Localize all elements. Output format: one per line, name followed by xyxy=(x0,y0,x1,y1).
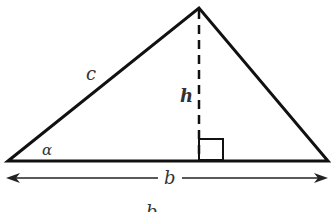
base-label-b: b xyxy=(164,167,176,188)
right-angle-marker xyxy=(199,139,223,160)
triangle-diagram: c h α b b xyxy=(0,0,334,212)
side-label-c: c xyxy=(86,63,96,84)
triangle xyxy=(8,8,328,161)
height-label-h: h xyxy=(180,85,193,106)
caption-partial-b: b xyxy=(146,201,158,212)
angle-label-alpha: α xyxy=(42,141,52,159)
